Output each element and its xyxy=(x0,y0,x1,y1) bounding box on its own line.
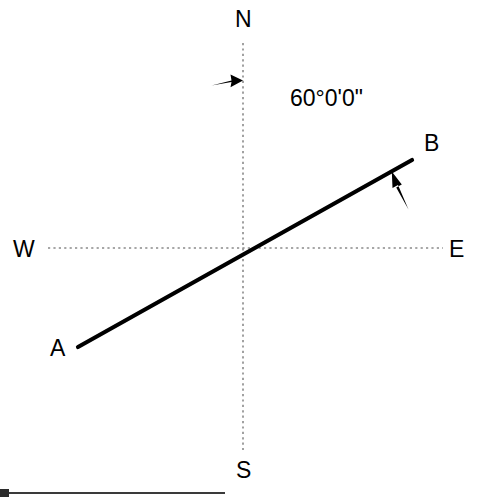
diagram-canvas: N S W E A B 60°0'0" xyxy=(0,0,478,503)
bearing-angle-label: 60°0'0" xyxy=(290,87,363,110)
point-label-b: B xyxy=(424,132,439,155)
compass-label-north: N xyxy=(235,8,252,31)
bottom-left-marker xyxy=(0,489,9,497)
point-label-a: A xyxy=(50,337,65,360)
bearing-direction-arrow-icon xyxy=(392,172,409,210)
line-ab xyxy=(78,160,412,347)
compass-label-south: S xyxy=(236,459,251,482)
bearing-diagram-svg xyxy=(0,0,478,503)
compass-label-east: E xyxy=(449,238,464,261)
north-reference-arrow-icon xyxy=(212,75,244,88)
bottom-divider xyxy=(8,492,225,494)
compass-label-west: W xyxy=(13,238,35,261)
